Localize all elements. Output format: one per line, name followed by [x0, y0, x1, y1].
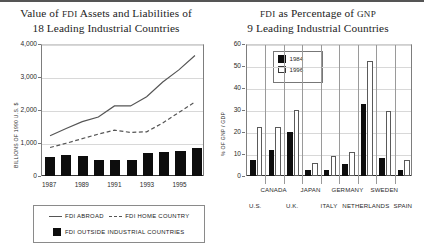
line-series-layer	[42, 45, 203, 176]
y-tick-label: 4,000	[9, 40, 37, 47]
y-tick-mark	[242, 110, 245, 111]
category-separator	[395, 45, 396, 184]
legend-label-1984: 1984	[290, 55, 304, 62]
category-stem	[274, 176, 275, 186]
category-stem	[403, 176, 404, 202]
category-separator	[358, 45, 359, 184]
y-tick-label: 60	[227, 40, 241, 47]
x-tick-label: 1991	[97, 181, 131, 188]
legend-label-fdi-home-country: FDI HOME COUNTRY	[125, 213, 189, 219]
category-stem	[347, 176, 348, 186]
legend-item-fdi-abroad: FDI ABROAD	[49, 213, 104, 219]
left-plot-area	[41, 44, 204, 176]
bar-1984	[379, 158, 385, 176]
category-separator	[339, 45, 340, 184]
y-tick-label: 50	[227, 62, 241, 69]
legend-item-fdi-outside: FDI OUTSIDE INDUSTRIAL COUNTRIES	[53, 228, 184, 236]
solid-line-icon	[49, 216, 62, 217]
y-tick-label: 10	[227, 150, 241, 157]
bar-1996	[386, 111, 392, 176]
left-title-line2: 18 Leading Industrial Countries	[0, 21, 212, 35]
right-title-line2: 9 Leading Industrial Countries	[212, 21, 424, 35]
y-tick-mark	[38, 110, 41, 111]
gridline	[247, 67, 411, 68]
y-tick-mark	[242, 66, 245, 67]
y-tick-label: 0	[227, 172, 241, 179]
bar-1984	[287, 132, 293, 176]
y-tick-label: 0	[9, 172, 37, 179]
y-tick-label: 40	[227, 84, 241, 91]
legend-item-fdi-home-country: FDI HOME COUNTRY	[109, 213, 190, 219]
bar-1996	[349, 152, 355, 176]
bar-1984	[250, 160, 256, 176]
legend-label-fdi-abroad: FDI ABROAD	[65, 213, 104, 219]
category-label: SPAIN	[375, 202, 424, 209]
category-stem	[311, 176, 312, 186]
y-tick-label: 2,000	[9, 106, 37, 113]
bar-1996	[275, 127, 281, 176]
category-label: SWEDEN	[356, 186, 412, 193]
y-tick-label: 3,000	[9, 73, 37, 80]
bar-1984	[269, 150, 275, 176]
y-tick-mark	[242, 44, 245, 45]
left-title-text-b: Assets and Liabilities of	[77, 7, 191, 19]
bar-1996	[257, 127, 263, 176]
y-tick-mark	[242, 132, 245, 133]
bar-1984	[342, 164, 348, 176]
y-tick-label: 1,000	[9, 139, 37, 146]
y-tick-mark	[38, 176, 41, 177]
bar-1984	[361, 104, 367, 176]
x-tick-label: 1989	[65, 181, 99, 188]
right-title-smallcaps-gnp: GNP	[357, 9, 376, 19]
line-fdi-abroad	[50, 55, 195, 135]
bar-1996	[294, 110, 300, 176]
category-separator	[376, 45, 377, 184]
y-tick-mark	[38, 143, 41, 144]
right-y-axis-label: % OF GNP / GDP	[220, 112, 226, 156]
category-separator	[265, 45, 266, 184]
x-tick-label: 1993	[130, 181, 164, 188]
x-tick-label: 1987	[32, 181, 66, 188]
right-chart-title: FDI as Percentage of GNP 9 Leading Indus…	[212, 6, 424, 35]
right-title-smallcaps-fdi: FDI	[260, 9, 276, 19]
category-separator	[302, 45, 303, 184]
left-title-smallcaps-fdi: FDI	[62, 9, 78, 19]
x-tick-label: 1995	[163, 181, 197, 188]
y-tick-mark	[38, 77, 41, 78]
bar-1996	[404, 160, 410, 176]
left-chart-title: Value of FDI Assets and Liabilities of 1…	[0, 6, 212, 35]
bar-1996	[367, 61, 373, 176]
left-legend-row-bars: FDI OUTSIDE INDUSTRIAL COUNTRIES	[34, 228, 204, 236]
y-tick-label: 30	[227, 106, 241, 113]
y-tick-mark	[242, 88, 245, 89]
left-chart-panel: Value of FDI Assets and Liabilities of 1…	[0, 0, 212, 252]
dashed-line-icon	[109, 216, 122, 217]
gridline	[247, 45, 411, 46]
y-tick-mark	[38, 44, 41, 45]
right-title-text-b: as Percentage of	[276, 7, 357, 19]
left-legend: FDI ABROAD FDI HOME COUNTRY FDI OUTSIDE …	[33, 205, 205, 243]
bar-1996	[312, 163, 318, 176]
left-legend-row-lines: FDI ABROAD FDI HOME COUNTRY	[34, 213, 204, 219]
right-plot-area: 1984 1996	[246, 44, 412, 176]
category-separator	[321, 45, 322, 184]
category-separator	[284, 45, 285, 184]
bar-1996	[331, 156, 337, 176]
filled-square-icon	[53, 228, 61, 236]
gridline	[247, 89, 411, 90]
line-fdi-home-country	[50, 102, 195, 148]
figure-root: Value of FDI Assets and Liabilities of 1…	[0, 0, 424, 252]
y-tick-mark	[242, 154, 245, 155]
category-stem	[384, 176, 385, 186]
y-tick-mark	[242, 176, 245, 177]
y-tick-label: 20	[227, 128, 241, 135]
left-title-text-a: Value of	[20, 7, 62, 19]
legend-label-fdi-outside: FDI OUTSIDE INDUSTRIAL COUNTRIES	[65, 229, 185, 235]
